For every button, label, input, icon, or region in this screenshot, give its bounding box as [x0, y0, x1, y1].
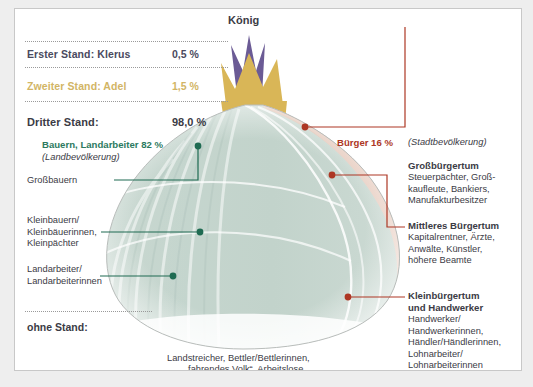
ohne-stand-label: ohne Stand:: [27, 321, 88, 333]
bottom-line-2: „fahrendes Volk“, Arbeitslose: [185, 364, 303, 371]
marker-grossbuergertum: [302, 124, 309, 131]
group-body-mittleres-buergertum: Kapitalrentner, Ärzte, Anwälte, Künstler…: [408, 232, 495, 267]
group-title-kleinbuergertum: Kleinbürgertum und Handwerker: [408, 290, 483, 313]
rural-headline: Bauern, Landarbeiter 82 %: [42, 139, 163, 150]
stand-pct-klerus: 0,5 %: [172, 48, 199, 60]
page-title: König: [228, 14, 259, 26]
buerger-headline: Bürger 16 %: [337, 137, 393, 148]
bottom-line-1: Landstreicher, Bettler/Bettlerinnen,: [167, 353, 310, 363]
rule-3: [25, 101, 228, 102]
callout-grossbauern: Großbauern: [27, 175, 77, 187]
diagram-root: König Erster Stand: Klerus 0,5 % Zweiter…: [0, 0, 533, 387]
rule-2: [25, 67, 228, 68]
rule-4: [25, 311, 152, 312]
callout-landarbeiter: Landarbeiter/ Landarbeiterinnen: [27, 264, 102, 287]
rule-1: [25, 41, 228, 42]
marker-landarbeiter: [170, 273, 177, 280]
marker-kleinbauern: [197, 229, 204, 236]
callout-kleinbauern: Kleinbauern/ Kleinbäuerinnen, Kleinpächt…: [27, 215, 97, 250]
stand-pct-adel: 1,5 %: [172, 80, 199, 92]
marker-mittleres-buergertum: [329, 172, 336, 179]
rural-sub: (Landbevölkerung): [42, 152, 120, 162]
diagram-card: König Erster Stand: Klerus 0,5 % Zweiter…: [14, 8, 522, 371]
group-body-grossbuergertum: Steuerpächter, Groß- kaufleute, Bankiers…: [408, 172, 495, 207]
marker-grossbauern: [195, 143, 202, 150]
stand-label-klerus: Erster Stand: Klerus: [27, 48, 131, 60]
stand-label-dritter: Dritter Stand:: [27, 116, 99, 128]
group-title-grossbuergertum: Großbürgertum: [408, 160, 479, 172]
group-title-mittleres-buergertum: Mittleres Bürgertum: [408, 220, 499, 232]
stand-pct-dritter: 98,0 %: [172, 116, 206, 128]
marker-kleinbuergertum: [345, 294, 352, 301]
stand-label-adel: Zweiter Stand: Adel: [27, 80, 127, 92]
buerger-sub: (Stadtbevölkerung): [408, 137, 487, 147]
group-body-kleinbuergertum: Handwerker/ Handwerkerinnen, Händler/Hän…: [408, 314, 501, 371]
